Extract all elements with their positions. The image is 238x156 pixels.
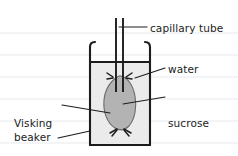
- label-beaker: beaker: [14, 131, 51, 144]
- label-capillary-tube: capillary tube: [150, 22, 223, 35]
- label-sucrose-line1: sucrose: [168, 117, 210, 130]
- label-visking-line2: tubing: [14, 155, 52, 156]
- label-water: water: [168, 63, 198, 76]
- sucrose-solution: [106, 84, 134, 124]
- label-sucrose-solution: sucrose solution: [168, 92, 210, 155]
- label-sucrose-line2: solution: [168, 155, 210, 156]
- label-visking-line1: Visking: [14, 117, 52, 130]
- leader-beaker: [58, 131, 90, 138]
- diagram-canvas: capillary tube water sucrose solution Vi…: [0, 0, 238, 155]
- label-visking-tubing: Visking tubing: [14, 92, 52, 155]
